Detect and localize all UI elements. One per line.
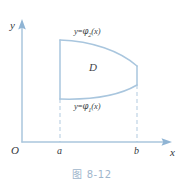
upper-curve-label: y=φ2(x)	[74, 27, 100, 38]
lower-curve-label-arg: (x)	[91, 101, 100, 111]
upper-curve-label-arg: (x)	[91, 26, 100, 36]
figure-container: y x O a b D y=φ2(x) y=φ1(x) 图 8-12	[0, 0, 184, 189]
region-d-label: D	[89, 62, 97, 73]
y-axis-label: y	[10, 20, 15, 31]
x-axis-label: x	[170, 147, 175, 158]
origin-label: O	[11, 145, 19, 156]
lower-curve-label: y=φ1(x)	[74, 102, 100, 113]
figure-caption-number: 8-12	[87, 169, 112, 180]
x-tick-label-b: b	[134, 146, 139, 156]
figure-caption-cjk: 图	[72, 169, 83, 180]
figure-caption: 图 8-12	[0, 166, 184, 181]
x-tick-label-a: a	[57, 146, 62, 156]
